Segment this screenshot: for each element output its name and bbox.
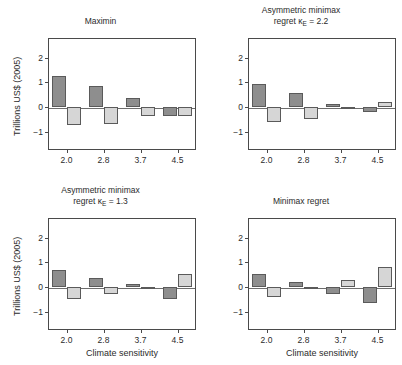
- xtick-label-asym-minimax-regret-2-2-3: 4.5: [372, 155, 384, 165]
- bar-maximin-light-2.8: [104, 107, 119, 124]
- ytick-label-minimax-regret-3: 2: [238, 233, 243, 243]
- bar-asym-minimax-regret-2-2-light-4.5: [378, 102, 393, 107]
- bar-asym-minimax-regret-2-2-dark-4.5: [363, 107, 378, 112]
- bar-minimax-regret-dark-4.5: [363, 287, 378, 303]
- y-axis-label-top: Trillions US$ (2005): [12, 57, 22, 136]
- xtick-asym-minimax-regret-2-2-0: [267, 150, 268, 153]
- plot-area-asym-minimax-regret-1-3: [48, 218, 196, 330]
- xtick-asym-minimax-regret-2-2-2: [341, 150, 342, 153]
- bar-asym-minimax-regret-2-2-light-3.7: [341, 107, 356, 109]
- xtick-label-maximin-1: 2.8: [98, 155, 110, 165]
- xtick-label-asym-minimax-regret-1-3-2: 3.7: [135, 335, 147, 345]
- ytick-asym-minimax-regret-2-2-3: [245, 58, 248, 59]
- bar-maximin-dark-3.7: [126, 98, 141, 107]
- xtick-asym-minimax-regret-2-2-1: [304, 150, 305, 153]
- bar-maximin-light-2.0: [67, 107, 82, 125]
- xtick-asym-minimax-regret-1-3-1: [104, 330, 105, 333]
- plot-area-asym-minimax-regret-2-2: [248, 38, 396, 150]
- ytick-label-asym-minimax-regret-2-2-1: 0: [238, 102, 243, 112]
- ytick-label-asym-minimax-regret-2-2-3: 2: [238, 53, 243, 63]
- ytick-maximin-2: [45, 82, 48, 83]
- ytick-label-maximin-0: −1: [33, 127, 43, 137]
- xtick-label-maximin-3: 4.5: [172, 155, 184, 165]
- y-axis-label-bottom: Trillions US$ (2005): [12, 237, 22, 316]
- ytick-label-minimax-regret-2: 1: [238, 257, 243, 267]
- bar-minimax-regret-light-2.8: [304, 287, 319, 289]
- panel-title-asym-minimax-regret-1-3: Asymmetric minimaxregret κE = 1.3: [0, 185, 201, 209]
- xtick-label-minimax-regret-3: 4.5: [372, 335, 384, 345]
- figure-panel-grid: Maximin−10122.02.83.74.5Asymmetric minim…: [0, 0, 402, 365]
- ytick-label-asym-minimax-regret-2-2-2: 1: [238, 77, 243, 87]
- bar-minimax-regret-light-3.7: [341, 280, 356, 287]
- panel-title-asym-minimax-regret-2-2: Asymmetric minimaxregret κE = 2.2: [200, 5, 402, 29]
- ytick-label-asym-minimax-regret-1-3-3: 2: [38, 233, 43, 243]
- ytick-label-minimax-regret-1: 0: [238, 282, 243, 292]
- bar-minimax-regret-light-2.0: [267, 287, 282, 297]
- ytick-label-asym-minimax-regret-1-3-1: 0: [38, 282, 43, 292]
- xtick-maximin-2: [141, 150, 142, 153]
- ytick-label-maximin-2: 1: [38, 77, 43, 87]
- ytick-minimax-regret-0: [245, 312, 248, 313]
- xtick-label-asym-minimax-regret-2-2-1: 2.8: [298, 155, 310, 165]
- bar-asym-minimax-regret-1-3-light-2.8: [104, 287, 119, 294]
- bar-asym-minimax-regret-2-2-dark-2.0: [252, 84, 267, 107]
- xtick-label-asym-minimax-regret-2-2-0: 2.0: [261, 155, 273, 165]
- ytick-maximin-3: [45, 58, 48, 59]
- bar-asym-minimax-regret-1-3-light-4.5: [178, 274, 193, 287]
- ytick-maximin-0: [45, 132, 48, 133]
- ytick-asym-minimax-regret-1-3-1: [45, 287, 48, 288]
- ytick-label-maximin-3: 2: [38, 53, 43, 63]
- bar-maximin-light-3.7: [141, 107, 156, 116]
- x-axis-label-left: Climate sensitivity: [48, 348, 196, 358]
- xtick-label-asym-minimax-regret-1-3-1: 2.8: [98, 335, 110, 345]
- bar-asym-minimax-regret-1-3-dark-2.0: [52, 270, 67, 287]
- x-axis-label-right: Climate sensitivity: [248, 348, 396, 358]
- bar-asym-minimax-regret-1-3-dark-2.8: [89, 278, 104, 287]
- bar-maximin-dark-4.5: [163, 107, 178, 116]
- xtick-asym-minimax-regret-1-3-3: [178, 330, 179, 333]
- xtick-minimax-regret-0: [267, 330, 268, 333]
- xtick-maximin-0: [67, 150, 68, 153]
- panel-title-minimax-regret: Minimax regret: [200, 196, 402, 207]
- bar-minimax-regret-dark-3.7: [326, 287, 341, 294]
- bar-minimax-regret-dark-2.8: [289, 282, 304, 286]
- ytick-minimax-regret-3: [245, 238, 248, 239]
- plot-area-maximin: [48, 38, 196, 150]
- ytick-label-asym-minimax-regret-1-3-2: 1: [38, 257, 43, 267]
- bar-maximin-light-4.5: [178, 107, 193, 116]
- ytick-asym-minimax-regret-1-3-2: [45, 262, 48, 263]
- ytick-label-maximin-1: 0: [38, 102, 43, 112]
- bar-asym-minimax-regret-2-2-dark-3.7: [326, 104, 341, 106]
- xtick-label-asym-minimax-regret-1-3-0: 2.0: [61, 335, 73, 345]
- xtick-minimax-regret-3: [378, 330, 379, 333]
- ytick-minimax-regret-1: [245, 287, 248, 288]
- xtick-label-asym-minimax-regret-2-2-2: 3.7: [335, 155, 347, 165]
- ytick-asym-minimax-regret-2-2-0: [245, 132, 248, 133]
- ytick-label-asym-minimax-regret-2-2-0: −1: [233, 127, 243, 137]
- bar-asym-minimax-regret-2-2-light-2.8: [304, 107, 319, 119]
- xtick-label-asym-minimax-regret-1-3-3: 4.5: [172, 335, 184, 345]
- bar-maximin-dark-2.0: [52, 76, 67, 107]
- xtick-maximin-1: [104, 150, 105, 153]
- ytick-label-minimax-regret-0: −1: [233, 307, 243, 317]
- ytick-maximin-1: [45, 107, 48, 108]
- ytick-asym-minimax-regret-1-3-3: [45, 238, 48, 239]
- plot-area-minimax-regret: [248, 218, 396, 330]
- xtick-asym-minimax-regret-1-3-2: [141, 330, 142, 333]
- ytick-asym-minimax-regret-2-2-1: [245, 107, 248, 108]
- ytick-minimax-regret-2: [245, 262, 248, 263]
- xtick-minimax-regret-2: [341, 330, 342, 333]
- bar-minimax-regret-dark-2.0: [252, 274, 267, 287]
- panel-title-maximin: Maximin: [0, 16, 201, 27]
- bar-asym-minimax-regret-2-2-light-2.0: [267, 107, 282, 122]
- bar-asym-minimax-regret-1-3-dark-3.7: [126, 284, 141, 287]
- xtick-label-maximin-2: 3.7: [135, 155, 147, 165]
- bar-asym-minimax-regret-1-3-light-3.7: [141, 287, 156, 289]
- xtick-label-maximin-0: 2.0: [61, 155, 73, 165]
- xtick-label-minimax-regret-1: 2.8: [298, 335, 310, 345]
- ytick-asym-minimax-regret-2-2-2: [245, 82, 248, 83]
- bar-maximin-dark-2.8: [89, 86, 104, 107]
- bar-minimax-regret-light-4.5: [378, 267, 393, 287]
- ytick-asym-minimax-regret-1-3-0: [45, 312, 48, 313]
- bar-asym-minimax-regret-1-3-light-2.0: [67, 287, 82, 299]
